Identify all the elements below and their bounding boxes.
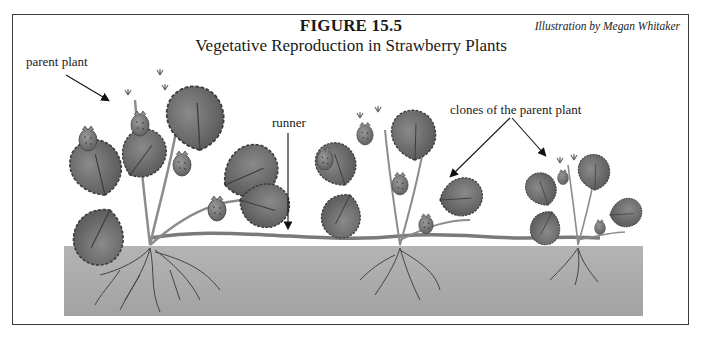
soil: [64, 246, 643, 316]
arrow-parent: [66, 75, 108, 100]
arrow-clone-1: [451, 118, 510, 176]
arrow-clone-2: [512, 118, 545, 155]
strawberry-illustration: [0, 0, 702, 338]
parent-plant: [63, 69, 293, 272]
clone-plant-1: [309, 106, 485, 245]
clone-plant-2: [521, 153, 644, 249]
